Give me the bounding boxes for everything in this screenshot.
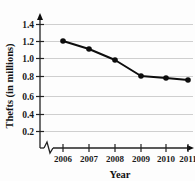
x-tick-label-2007: 2007 [80,154,99,164]
x-tick-label-2009: 2009 [132,154,151,164]
data-point-2010 [163,75,169,81]
data-point-2007 [86,46,92,52]
data-point-2008 [112,57,118,63]
x-tick-label-2008: 2008 [106,154,125,164]
y-axis [36,13,44,148]
line-chart-figure: 1.4 1.2 1.0 0.8 0.6 0.4 0.2 2006 2007 20… [0,0,195,181]
y-tick-label-0.2: 0.2 [22,127,34,137]
y-axis-arrow-icon [37,13,43,20]
axis-break-zigzag-icon [44,142,53,153]
y-tick-labels: 1.4 1.2 1.0 0.8 0.6 0.4 0.2 [22,20,34,137]
data-point-2009 [138,73,144,79]
x-axis [40,142,194,153]
y-tick-label-0.6: 0.6 [22,92,34,102]
y-tick-label-0.8: 0.8 [22,72,34,82]
x-tick-labels: 2006 2007 2008 2009 2010 2011 [54,154,195,164]
y-tick-label-1.4: 1.4 [22,20,34,30]
x-tick-label-2010: 2010 [157,154,176,164]
y-tick-label-1.2: 1.2 [22,37,34,47]
x-axis-title: Year [110,169,131,180]
x-tick-label-2011: 2011 [179,154,195,164]
y-tick-label-1.0: 1.0 [22,54,34,64]
data-point-2011 [185,77,191,83]
series-line [63,41,188,80]
chart-canvas: 1.4 1.2 1.0 0.8 0.6 0.4 0.2 2006 2007 20… [0,0,195,181]
data-point-2006 [60,38,66,44]
y-axis-title: Thefts (in millions) [4,43,16,129]
y-tick-label-0.4: 0.4 [22,110,34,120]
x-tick-label-2006: 2006 [54,154,73,164]
